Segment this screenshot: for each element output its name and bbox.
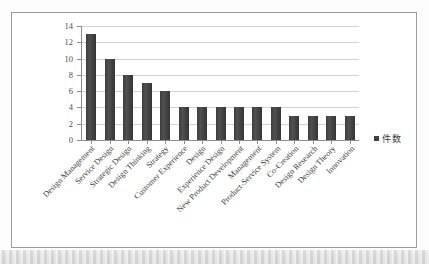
x-tick-mark <box>221 140 222 144</box>
bar <box>216 107 226 140</box>
y-tick-label: 2 <box>69 119 73 129</box>
bar <box>289 116 299 140</box>
bar-slot <box>174 26 192 140</box>
bar <box>345 116 355 140</box>
bar-slot <box>137 26 155 140</box>
x-tick-mark <box>165 140 166 144</box>
chart-page: 14121086420 Design ManagementService Des… <box>0 0 429 264</box>
bar-slot <box>230 26 248 140</box>
y-tick-label: 4 <box>69 102 73 112</box>
bar <box>123 75 133 140</box>
page-bottom-strip <box>0 250 429 264</box>
bar-slot <box>285 26 303 140</box>
y-tick-label: 14 <box>65 21 74 31</box>
y-tick-label: 12 <box>65 37 74 47</box>
bar-slot <box>82 26 100 140</box>
x-tick-mark <box>294 140 295 144</box>
y-tick-label: 0 <box>69 135 73 145</box>
bar <box>308 116 318 140</box>
x-tick-mark <box>147 140 148 144</box>
x-tick-mark <box>257 140 258 144</box>
bar-slot <box>156 26 174 140</box>
strip-texture <box>0 250 429 264</box>
bar-slot <box>341 26 359 140</box>
bar <box>252 107 262 140</box>
bar <box>105 59 115 140</box>
bar <box>86 34 96 140</box>
legend-label: 件数 <box>382 132 401 145</box>
bar-slot <box>100 26 118 140</box>
bar-slot <box>193 26 211 140</box>
bar <box>142 83 152 140</box>
bar <box>271 107 281 140</box>
chart-frame: 14121086420 Design ManagementService Des… <box>11 12 417 248</box>
x-tick-mark <box>184 140 185 144</box>
y-tick-label: 8 <box>69 70 73 80</box>
y-axis-labels: 14121086420 <box>12 26 81 140</box>
bar-slot <box>304 26 322 140</box>
bar <box>326 116 336 140</box>
x-tick-mark <box>91 140 92 144</box>
bar-slot <box>322 26 340 140</box>
chart-legend: 件数 <box>374 132 401 145</box>
bar <box>160 91 170 140</box>
y-tick-mark <box>77 140 81 141</box>
bar-slot <box>267 26 285 140</box>
y-tick-label: 6 <box>69 86 73 96</box>
x-tick-mark <box>128 140 129 144</box>
plot-area <box>81 26 359 140</box>
bar <box>179 107 189 140</box>
bar <box>197 107 207 140</box>
bar-slot <box>119 26 137 140</box>
bar <box>234 107 244 140</box>
bar-slot <box>211 26 229 140</box>
y-tick-label: 10 <box>65 54 74 64</box>
legend-swatch-icon <box>374 136 379 141</box>
x-tick-mark <box>331 140 332 144</box>
bar-series <box>82 26 359 140</box>
x-tick-mark <box>202 140 203 144</box>
x-tick-mark <box>110 140 111 144</box>
bar-slot <box>248 26 266 140</box>
